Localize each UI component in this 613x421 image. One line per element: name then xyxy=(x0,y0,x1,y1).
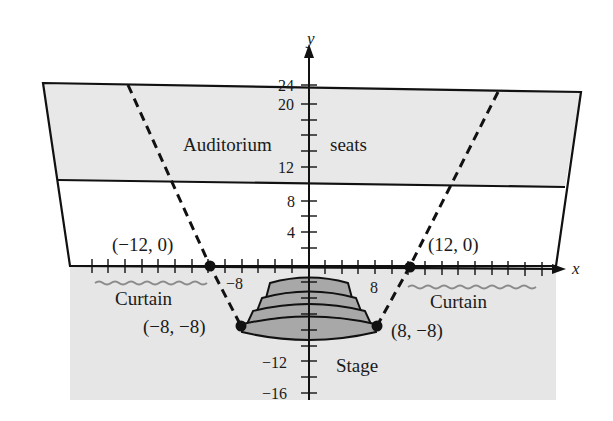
point-neg12-0 xyxy=(205,261,216,272)
point-neg8-neg8 xyxy=(236,321,247,332)
x-axis-arrow-icon xyxy=(552,264,566,274)
x-tick-label: 8 xyxy=(370,279,378,296)
point-8-neg8 xyxy=(372,321,383,332)
auditorium-label: Auditorium xyxy=(183,134,272,155)
y-tick-label: 4 xyxy=(287,224,295,241)
auditorium-diagram: x −8 8 y 24 20 12 xyxy=(0,0,613,421)
curtain-left-label: Curtain xyxy=(115,288,172,309)
y-axis-label: y xyxy=(305,29,315,48)
y-tick-label: 20 xyxy=(278,96,294,113)
x-axis-label: x xyxy=(571,259,580,278)
point-label: (−8, −8) xyxy=(143,316,206,338)
stage-label: Stage xyxy=(336,355,378,376)
y-tick-label: 12 xyxy=(278,159,294,176)
point-label: (12, 0) xyxy=(428,234,479,256)
seats-label: seats xyxy=(330,134,367,155)
point-12-0 xyxy=(405,262,416,273)
y-tick-label: 8 xyxy=(287,193,295,210)
y-tick-label: −12 xyxy=(262,354,287,371)
y-tick-label: 24 xyxy=(278,77,294,94)
x-tick-label: −8 xyxy=(226,275,243,292)
point-label: (8, −8) xyxy=(391,320,443,342)
y-tick-label: −16 xyxy=(262,385,287,402)
curtain-right-label: Curtain xyxy=(430,291,487,312)
point-label: (−12, 0) xyxy=(112,234,173,256)
